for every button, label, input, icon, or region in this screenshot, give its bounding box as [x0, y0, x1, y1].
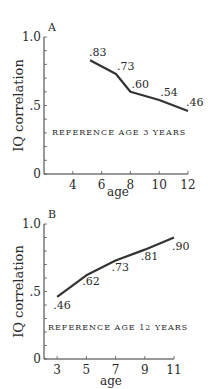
x-tick-label: 5 [83, 363, 91, 377]
y-tick-label: 1.0 [22, 217, 41, 231]
x-axis-label: age [100, 374, 122, 388]
data-label: .73 [117, 60, 135, 73]
data-label: .54 [160, 86, 178, 99]
x-axis-label: age [107, 185, 129, 199]
x-tick-label: 11 [166, 363, 181, 377]
y-axis-label: IQ correlation [11, 59, 26, 152]
data-label: .90 [172, 240, 190, 253]
data-label: .60 [131, 78, 149, 91]
x-tick-label: 10 [152, 178, 167, 192]
x-tick-label: 6 [98, 178, 106, 192]
reference-age-annotation: REFERENCE AGE 12 YEARS [48, 323, 188, 332]
data-label: .46 [186, 96, 204, 109]
chart-panel-a: 0.51.04681012AIQ correlationageREFERENCE… [11, 21, 204, 199]
data-label: .83 [89, 46, 107, 59]
y-tick-label: 0 [33, 352, 41, 366]
figure: 0.51.04681012AIQ correlationageREFERENCE… [0, 0, 208, 389]
data-label: .81 [141, 250, 159, 263]
panel-label: B [48, 208, 56, 221]
data-label: .73 [112, 261, 129, 274]
panel-label: A [47, 21, 57, 34]
reference-age-annotation: REFERENCE AGE 3 YEARS [52, 128, 186, 137]
x-tick-label: 9 [141, 363, 149, 377]
chart-panel-b: 0.51.0357911BIQ correlationageREFERENCE … [11, 208, 190, 388]
y-tick-label: .5 [30, 99, 41, 113]
y-axis-label: IQ correlation [11, 245, 26, 338]
y-tick-label: .5 [30, 285, 41, 299]
y-tick-label: 1.0 [22, 30, 41, 44]
data-label: .46 [53, 299, 71, 312]
x-tick-label: 12 [180, 178, 195, 192]
y-tick-label: 0 [33, 167, 41, 181]
x-tick-label: 3 [53, 363, 61, 377]
data-label: .62 [82, 275, 100, 288]
x-tick-label: 4 [69, 178, 77, 192]
